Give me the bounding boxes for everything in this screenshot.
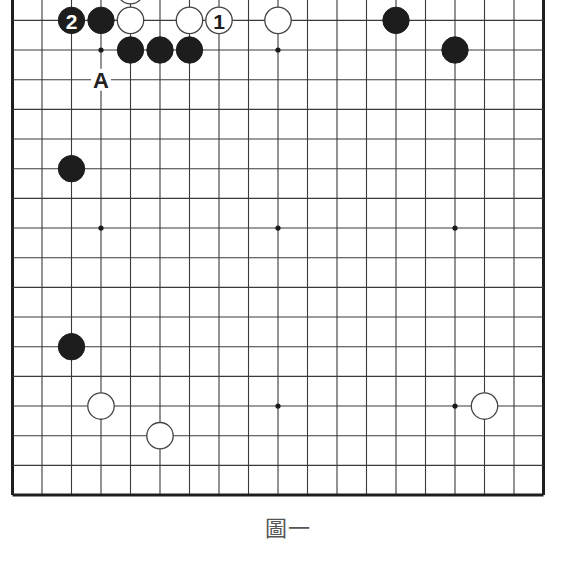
star-point [275, 403, 280, 408]
star-point [275, 47, 280, 52]
white-stone-disc [471, 393, 497, 419]
white-stone: 1 [206, 7, 232, 33]
black-stone [176, 37, 202, 63]
black-stone-disc [58, 155, 84, 181]
black-stone [117, 37, 143, 63]
black-stone-disc [383, 7, 409, 33]
white-stone [471, 393, 497, 419]
white-stone-disc [88, 393, 114, 419]
black-stone [58, 155, 84, 181]
black-stone-disc [176, 37, 202, 63]
black-stone [58, 334, 84, 360]
white-stone-disc [117, 0, 143, 4]
black-stone [383, 7, 409, 33]
point-label-text: A [93, 68, 109, 93]
go-diagram-figure: 21 A 圖一 [0, 0, 576, 564]
move-number: 1 [213, 10, 225, 33]
star-point [275, 225, 280, 230]
black-stone [442, 37, 468, 63]
star-point [98, 225, 103, 230]
white-stone-disc [176, 7, 202, 33]
point-label-marker: A [91, 68, 111, 93]
black-stone-disc [147, 37, 173, 63]
white-stone [117, 0, 143, 4]
figure-caption: 圖一 [0, 510, 576, 542]
black-stone-disc [88, 7, 114, 33]
white-stone [265, 7, 291, 33]
white-stone [147, 423, 173, 449]
white-stone-disc [147, 423, 173, 449]
white-stone [88, 393, 114, 419]
black-stone-disc [58, 334, 84, 360]
white-stone-disc [265, 7, 291, 33]
black-stone [147, 37, 173, 63]
star-point [452, 225, 457, 230]
black-stone-disc [442, 37, 468, 63]
star-point [98, 47, 103, 52]
point-labels: A [91, 68, 111, 93]
white-stone [176, 7, 202, 33]
black-stone-disc [117, 37, 143, 63]
black-stone: 2 [58, 7, 84, 33]
star-point [452, 403, 457, 408]
move-number: 2 [66, 10, 78, 33]
go-board: 21 A [0, 0, 576, 510]
black-stone [88, 7, 114, 33]
white-stone [117, 7, 143, 33]
white-stone-disc [117, 7, 143, 33]
